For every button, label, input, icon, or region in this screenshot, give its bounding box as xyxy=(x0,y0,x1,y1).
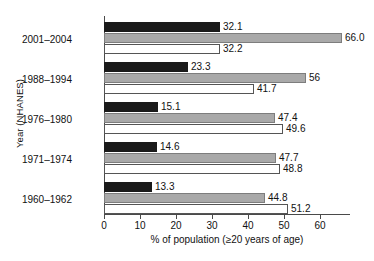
plot-area: 0 10 20 30 40 50 60 2001–2004 32.1 66.0 … xyxy=(104,16,350,214)
bar-dark xyxy=(104,62,188,72)
bar-group-1960-1962: 1960–1962 13.3 44.8 51.2 xyxy=(104,182,350,216)
category-label-1971-1974: 1971–1974 xyxy=(0,154,72,165)
category-label-1960-1962: 1960–1962 xyxy=(0,194,72,205)
bar-gray xyxy=(104,33,342,43)
bar-value-dark: 15.1 xyxy=(158,102,180,112)
bar-value-white: 49.6 xyxy=(283,124,305,134)
bar-group-2001-2004: 2001–2004 32.1 66.0 32.2 xyxy=(104,22,350,56)
x-tick-label-40: 40 xyxy=(233,220,263,231)
bar-dark xyxy=(104,22,220,32)
bar-white xyxy=(104,84,254,94)
category-label-2001-2004: 2001–2004 xyxy=(0,34,72,45)
x-tick-label-10: 10 xyxy=(125,220,155,231)
bar-value-gray: 56 xyxy=(306,73,320,83)
bar-value-dark: 32.1 xyxy=(220,22,242,32)
bar-dark xyxy=(104,182,152,192)
bar-value-dark: 14.6 xyxy=(157,142,179,152)
x-tick-label-30: 30 xyxy=(197,220,227,231)
x-tick-label-50: 50 xyxy=(269,220,299,231)
bar-white xyxy=(104,124,283,134)
bar-gray xyxy=(104,113,275,123)
bar-group-1988-1994: 1988–1994 23.3 56 41.7 xyxy=(104,62,350,96)
x-tick-label-0: 0 xyxy=(89,220,119,231)
category-label-1988-1994: 1988–1994 xyxy=(0,74,72,85)
bar-value-gray: 47.4 xyxy=(275,113,297,123)
bar-value-white: 51.2 xyxy=(288,204,310,214)
bar-value-white: 48.8 xyxy=(280,164,302,174)
bar-chart: Year (NHANES) 0 10 20 30 40 50 60 2001–2… xyxy=(0,0,374,261)
bar-dark xyxy=(104,102,158,112)
bar-value-white: 41.7 xyxy=(254,84,276,94)
bar-white xyxy=(104,44,220,54)
bar-gray xyxy=(104,73,306,83)
bar-value-gray: 44.8 xyxy=(265,193,287,203)
bar-white xyxy=(104,164,280,174)
bar-gray xyxy=(104,153,276,163)
bar-value-dark: 23.3 xyxy=(188,62,210,72)
bar-value-white: 32.2 xyxy=(220,44,242,54)
bar-dark xyxy=(104,142,157,152)
x-axis-title: % of population (≥20 years of age) xyxy=(104,234,350,245)
bar-value-dark: 13.3 xyxy=(152,182,174,192)
bar-value-gray: 47.7 xyxy=(276,153,298,163)
bar-group-1971-1974: 1971–1974 14.6 47.7 48.8 xyxy=(104,142,350,176)
category-label-1976-1980: 1976–1980 xyxy=(0,114,72,125)
bar-group-1976-1980: 1976–1980 15.1 47.4 49.6 xyxy=(104,102,350,136)
x-tick-label-60: 60 xyxy=(305,220,335,231)
bar-gray xyxy=(104,193,265,203)
x-tick-label-20: 20 xyxy=(161,220,191,231)
bar-value-gray: 66.0 xyxy=(342,33,364,43)
bar-white xyxy=(104,204,288,214)
